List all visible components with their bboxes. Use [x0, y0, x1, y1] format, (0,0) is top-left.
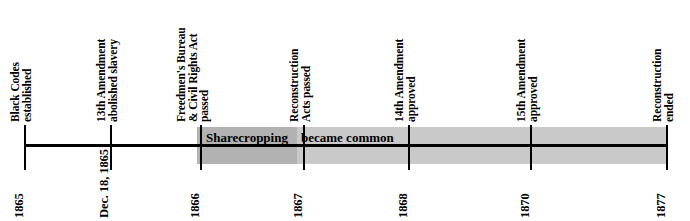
- year-label-1867: 1867: [292, 193, 305, 218]
- timeline-axis: [24, 144, 666, 147]
- year-label-1865: 1865: [13, 193, 26, 218]
- event-line: passed: [199, 27, 211, 122]
- event-label-14th-amendment: 14th Amendment approved: [394, 39, 417, 122]
- event-label-freedmens-bureau: Freedmen's Bureau & Civil Rights Act pas…: [176, 27, 211, 122]
- event-line: 13th Amendment: [96, 39, 108, 122]
- year-line: 1866: [188, 193, 202, 218]
- event-line: 15th Amendment: [516, 39, 528, 122]
- tick-1866: [200, 125, 202, 170]
- event-line: Freedmen's Bureau: [176, 27, 188, 122]
- event-line: 14th Amendment: [394, 39, 406, 122]
- timeline-figure: Sharecropping became common Black Codes …: [0, 0, 690, 221]
- tick-1877: [666, 125, 668, 170]
- event-line: established: [22, 62, 34, 122]
- event-line: Black Codes: [10, 62, 22, 122]
- tick-1868: [408, 125, 410, 170]
- year-line: 1867: [291, 193, 305, 218]
- year-line: 1870: [518, 193, 532, 218]
- year-line: 1868: [396, 193, 410, 218]
- event-line: abolished slavery: [108, 39, 120, 122]
- tick-1867: [303, 125, 305, 170]
- event-label-13th-amendment: 13th Amendment abolished slavery: [96, 39, 119, 122]
- year-label-1877: 1877: [655, 193, 668, 218]
- event-line: ended: [664, 49, 676, 122]
- event-line: Reconstruction: [652, 49, 664, 122]
- event-line: Reconstruction: [289, 49, 301, 122]
- event-line: approved: [528, 39, 540, 122]
- event-label-15th-amendment: 15th Amendment approved: [516, 39, 539, 122]
- year-label-dec-18-1865: Dec. 18, 1865: [98, 149, 111, 218]
- year-line: Dec. 18,: [97, 177, 111, 218]
- event-line: Acts passed: [301, 49, 313, 122]
- year-line: 1865: [12, 193, 26, 218]
- year-label-1870: 1870: [519, 193, 532, 218]
- year-line: 1877: [654, 193, 668, 218]
- tick-1865: [24, 125, 26, 170]
- year-label-1866: 1866: [189, 193, 202, 218]
- tick-1870: [530, 125, 532, 170]
- year-line: 1865: [97, 149, 111, 174]
- year-label-1868: 1868: [397, 193, 410, 218]
- event-line: approved: [406, 39, 418, 122]
- event-label-black-codes: Black Codes established: [10, 62, 33, 122]
- event-label-reconstruction-ended: Reconstruction ended: [652, 49, 675, 122]
- event-label-reconstruction-acts: Reconstruction Acts passed: [289, 49, 312, 122]
